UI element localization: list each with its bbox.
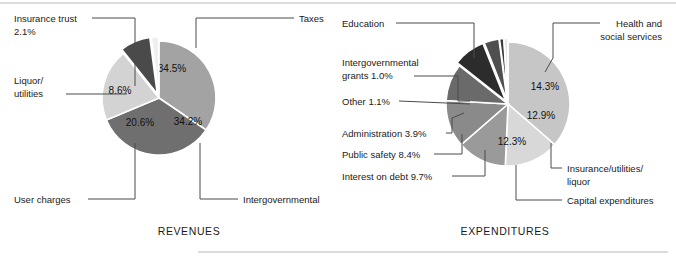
callout-intergovernmental-grants-line-1: grants 1.0% <box>342 70 393 81</box>
slice-user-charges-value-label: 20.6% <box>126 117 154 128</box>
callout-taxes-text: Taxes <box>299 13 324 24</box>
slice-intergovernmental-value-label: 34.2% <box>174 116 202 127</box>
figure-background <box>0 0 676 261</box>
callout-education-line-0: Education <box>342 18 384 29</box>
caption-revenues: REVENUES <box>158 225 221 237</box>
callout-intergovernmental-grants-line-0: Intergovernmental <box>342 57 419 68</box>
government-finance-pie-figure: Taxes 34.5%34.5%Intergovernmental 34.2%3… <box>0 0 676 261</box>
callout-liquor-utilities-line-1: utilities <box>14 88 43 99</box>
callout-interest-on-debt-line-0: Interest on debt 9.7% <box>342 171 433 182</box>
callout-other-text: Other 1.1% <box>342 96 391 107</box>
callout-user-charges-text: User charges <box>14 194 71 205</box>
callout-intergovernmental-text: Intergovernmental <box>243 194 320 205</box>
callout-education-text: Education <box>342 18 384 29</box>
callout-public-safety-line-0: Public safety 8.4% <box>342 149 421 160</box>
callout-public-safety-text: Public safety 8.4% <box>342 149 421 160</box>
callout-liquor-utilities-line-0: Liquor/ <box>14 75 43 86</box>
slice-health-social-services-value-label: 14.3% <box>531 81 559 92</box>
callout-taxes-line-0: Taxes <box>299 13 324 24</box>
callout-user-charges-line-0: User charges <box>14 194 71 205</box>
callout-other-line-0: Other 1.1% <box>342 96 391 107</box>
callout-capital-expenditures-line-0: Capital expenditures <box>567 195 654 206</box>
callout-capital-expenditures-text: Capital expenditures <box>567 195 654 206</box>
slice-taxes-value-label: 34.5% <box>158 63 186 74</box>
callout-interest-on-debt-text: Interest on debt 9.7% <box>342 171 433 182</box>
callout-health-social-services-line-1: social services <box>600 31 662 42</box>
callout-administration-line-0: Administration 3.9% <box>342 128 427 139</box>
callout-administration-text: Administration 3.9% <box>342 128 427 139</box>
caption-expenditures: EXPENDITURES <box>461 225 550 237</box>
slice-capital-expenditures-value-label: 12.3% <box>498 136 526 147</box>
callout-insurance-trust-line-0: Insurance trust <box>14 13 77 24</box>
callout-insurance-utilities-liquor-line-1: liquor <box>567 176 590 187</box>
callout-insurance-trust-line-1: 2.1% <box>14 26 36 37</box>
callout-intergovernmental-line-0: Intergovernmental <box>243 194 320 205</box>
slice-insurance-utilities-liquor-value-label: 12.9% <box>527 110 555 121</box>
callout-insurance-utilities-liquor-line-0: Insurance/utilities/ <box>567 163 643 174</box>
callout-health-social-services-line-0: Health and <box>616 18 662 29</box>
